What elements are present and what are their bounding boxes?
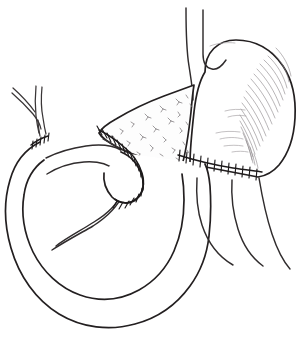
surgical-illustration-figure: Roux-en-Y reconstruction after pancreati… <box>0 0 298 337</box>
stomach <box>190 40 295 177</box>
surgical-illustration-canvas: Roux-en-Y reconstruction after pancreati… <box>0 0 298 337</box>
stomach-outline <box>190 40 295 177</box>
